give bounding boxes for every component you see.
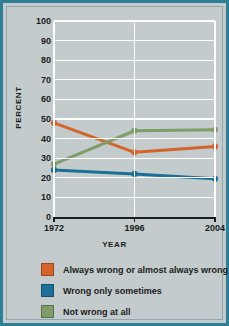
y-axis-tick-label: 20 (41, 173, 51, 182)
y-axis-tick-label: 80 (41, 56, 51, 65)
plot-area (54, 21, 215, 217)
y-axis-tick-label: 70 (41, 75, 51, 84)
x-axis-tick-label: 1972 (44, 223, 64, 233)
legend-item-label: Always wrong or almost always wrong (63, 265, 228, 275)
legend-item: Wrong only sometimes (7, 280, 222, 301)
x-axis-tick-mark (214, 217, 216, 222)
y-axis-tick-label: 100 (36, 17, 51, 26)
y-axis-tick-label: 40 (41, 134, 51, 143)
x-axis-tick-mark (53, 217, 55, 222)
legend-color-swatch (41, 305, 54, 318)
legend-item-label: Not wrong at all (63, 307, 131, 317)
vertical-gridline (134, 21, 135, 217)
x-axis-title: YEAR (7, 240, 222, 249)
x-axis-tick-mark (134, 217, 136, 222)
legend-color-swatch (41, 263, 54, 276)
y-axis-tick-label: 0 (46, 213, 51, 222)
legend-item-label: Wrong only sometimes (63, 286, 162, 296)
legend-item: Always wrong or almost always wrong (7, 259, 222, 280)
chart-figure-inner: PERCENT 1009080706050403020100 197219962… (6, 6, 223, 320)
legend-item: Not wrong at all (7, 301, 222, 322)
y-axis-tick-label: 90 (41, 36, 51, 45)
legend-color-swatch (41, 284, 54, 297)
vertical-gridline (53, 21, 54, 217)
y-axis-tick-labels: 1009080706050403020100 (21, 7, 51, 239)
plot-region: PERCENT 1009080706050403020100 197219962… (7, 7, 222, 239)
y-axis-tick-label: 60 (41, 95, 51, 104)
chart-figure: PERCENT 1009080706050403020100 197219962… (0, 0, 229, 326)
x-axis-tick-label: 1996 (124, 223, 144, 233)
vertical-gridline (214, 21, 215, 217)
chart-legend: Always wrong or almost always wrongWrong… (7, 259, 222, 322)
x-axis-tick-label: 2004 (205, 223, 225, 233)
y-axis-tick-label: 10 (41, 193, 51, 202)
y-axis-tick-label: 50 (41, 115, 51, 124)
y-axis-tick-label: 30 (41, 154, 51, 163)
